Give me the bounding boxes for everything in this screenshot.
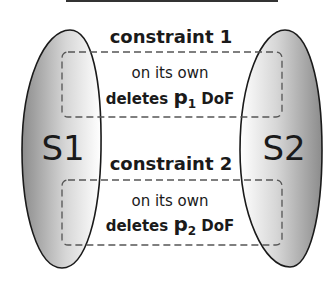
constraint-2-line2: deletes p2 DoF xyxy=(106,212,235,238)
set-s1-label: S1 xyxy=(41,128,84,168)
constraint-2-title: constraint 2 xyxy=(110,153,233,174)
constraint-2-sub: 2 xyxy=(188,224,196,238)
constraint-1-prefix: deletes xyxy=(106,90,174,108)
constraint-1-title: constraint 1 xyxy=(110,26,233,47)
constraint-2-line1: on its own xyxy=(131,192,208,210)
constraint-2-prefix: deletes xyxy=(106,217,174,235)
set-s2-label: S2 xyxy=(262,128,305,168)
diagram-canvas: S1 S2 constraint 1 on its own deletes p1… xyxy=(0,0,336,287)
constraint-2-param: p xyxy=(173,212,187,236)
constraint-1-param: p xyxy=(173,85,187,109)
constraint-1-line1: on its own xyxy=(131,64,208,82)
constraint-2-suffix: DoF xyxy=(196,217,234,235)
constraint-1-sub: 1 xyxy=(188,97,196,111)
constraint-1-line2: deletes p1 DoF xyxy=(106,85,235,111)
constraint-1-suffix: DoF xyxy=(196,90,234,108)
